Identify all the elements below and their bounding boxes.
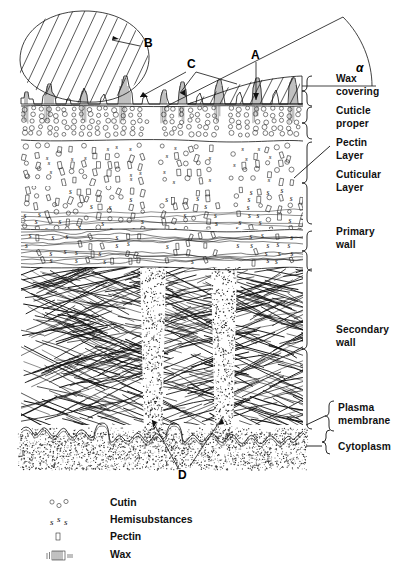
svg-text:s: s [127,240,130,248]
svg-text:s: s [290,194,293,203]
svg-text:s: s [275,258,278,266]
svg-text:s: s [25,242,28,250]
svg-text:s: s [50,257,53,265]
label-plasma-membrane-line1: Plasma [338,402,375,413]
svg-text:s: s [290,234,293,242]
cuticle-cross-section-diagram: sssssssssssssssssssssss ssssssssssssssss… [0,0,402,567]
label-cytoplasm: Cytoplasm [338,441,391,452]
legend-label-wax: Wax [110,549,131,560]
svg-text:s: s [48,159,51,167]
svg-text:s: s [166,243,169,251]
svg-text:s: s [245,155,248,163]
svg-text:s: s [267,257,270,265]
svg-text:s: s [196,194,199,203]
svg-text:s: s [236,242,239,250]
hemisubstances-s-symbol: s [50,517,54,527]
svg-text:s: s [248,211,251,220]
svg-text:s: s [115,242,118,250]
svg-text:s: s [289,216,292,225]
label-secondary-wall-line2: wall [335,337,356,348]
label-wax-covering-line1: Wax [336,73,357,84]
label-pectin-layer-line2: Layer [336,150,364,161]
svg-text:s: s [258,145,261,153]
figure-canvas: sssssssssssssssssssssss ssssssssssssssss… [0,0,402,567]
hemisubstances-s-symbol-3: s [64,517,68,527]
label-cuticle-proper-line1: Cuticle [336,105,371,116]
callout-label-d: D [178,468,187,482]
svg-text:s: s [38,210,41,219]
svg-text:s: s [249,233,252,241]
svg-text:s: s [250,242,253,250]
svg-text:s: s [90,202,93,211]
svg-text:s: s [101,219,104,228]
svg-text:s: s [129,145,132,153]
svg-text:s: s [66,233,69,241]
svg-text:s: s [165,152,168,160]
svg-text:s: s [35,217,38,226]
svg-text:s: s [64,248,67,256]
svg-text:s: s [99,250,102,258]
label-cuticle-proper-line2: proper [336,118,369,129]
svg-text:s: s [103,258,106,266]
callout-label-a: A [251,48,260,62]
svg-text:s: s [233,161,236,169]
label-wax-covering-line2: covering [336,86,379,97]
svg-text:s: s [281,186,284,195]
label-plasma-membrane-line2: membrane [338,415,391,426]
label-cuticular-layer-line2: Layer [336,182,364,193]
svg-text:s: s [174,144,177,152]
callout-label-b: B [144,36,153,50]
svg-text:s: s [130,175,133,183]
svg-text:s: s [163,168,166,176]
svg-text:s: s [241,145,244,153]
svg-text:s: s [75,249,78,257]
svg-text:s: s [278,250,281,258]
svg-text:s: s [172,178,175,186]
svg-text:s: s [269,153,272,161]
svg-text:s: s [204,202,207,211]
svg-text:s: s [208,176,211,184]
svg-text:s: s [130,195,133,204]
svg-text:s: s [69,187,72,196]
svg-text:s: s [268,176,271,184]
svg-text:s: s [141,217,144,226]
legend-label-hemisubstances: Hemisubstances [110,514,193,525]
label-primary-wall-line2: wall [335,239,356,250]
legend-label-pectin: Pectin [110,531,141,542]
svg-text:s: s [115,143,118,151]
svg-text:s: s [29,232,32,240]
label-pectin-layer-line1: Pectin [336,137,367,148]
svg-text:s: s [165,195,168,204]
svg-text:s: s [24,211,27,220]
callout-label-alpha: α [356,61,364,75]
svg-text:s: s [139,169,142,177]
label-secondary-wall-line1: Secondary [336,324,389,335]
svg-text:s: s [106,145,109,153]
svg-text:s: s [288,242,291,250]
label-primary-wall-line1: Primary [336,226,375,237]
svg-text:s: s [277,241,280,249]
svg-text:s: s [71,155,74,163]
callout-label-c: C [187,57,196,71]
legend-label-cutin: Cutin [110,497,137,508]
svg-text:s: s [52,234,55,242]
svg-text:s: s [191,258,194,266]
svg-text:s: s [261,232,264,240]
svg-text:s: s [75,257,78,265]
label-cuticular-layer-line1: Cuticular [336,169,381,180]
hemisubstances-s-symbol-2: s [57,514,61,524]
